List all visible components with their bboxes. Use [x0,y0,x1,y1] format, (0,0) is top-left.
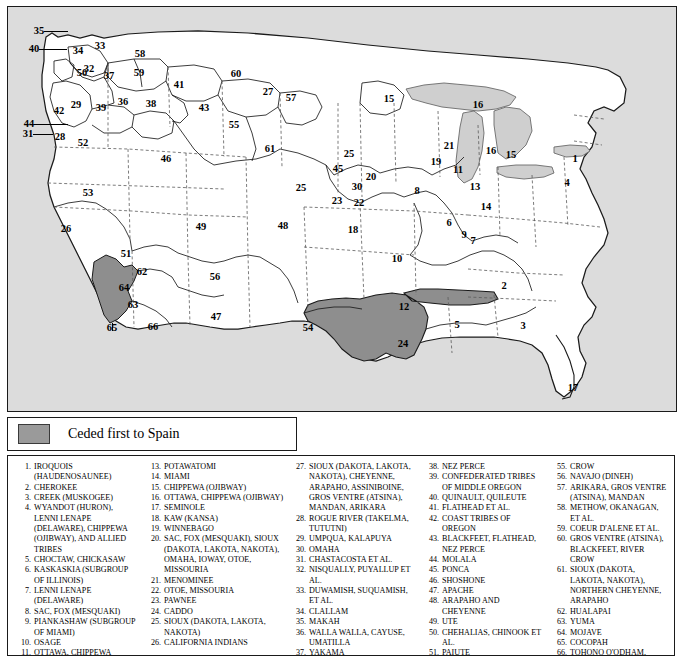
legend-item-label: IROQUOIS (HAUDENOSAUNEE) [34,462,139,483]
legend-item-number: 46. [424,576,442,586]
legend-item-label: OMAHA [309,545,417,555]
region-number-50: 50 [77,68,88,79]
leader-line [39,49,67,50]
legend-item-number: 55. [552,462,570,472]
region-number-12: 12 [399,302,410,313]
legend-item: 6.KASKASKIA (SUBGROUP OF ILLINOIS) [16,565,139,586]
legend-item: 44.MOLALA [424,555,545,565]
legend-item-label: COEUR D'ALENE ET AL. [570,524,667,534]
legend-item-number: 16. [146,493,164,503]
legend-item-label: NEZ PERCE [442,462,545,472]
legend-item-label: SAC, FOX (MESQUAKI), SIOUX (DAKOTA, LAKO… [164,534,284,575]
legend-item-number: 31. [291,555,309,565]
region-number-43: 43 [199,103,210,114]
legend-item-label: OTOE, MISSOURIA [164,586,284,596]
legend-item-label: WYANDOT (HURON), LENNI LENAPE (DELAWARE)… [34,503,139,555]
region-number-1: 1 [572,154,577,165]
legend-item: 36.WALLA WALLA, CAYUSE, UMATILLA [291,628,417,649]
legend-item: 45.PONCA [424,565,545,575]
ceded-spain-swatch [18,424,50,444]
legend-item-number: 42. [424,514,442,535]
legend-item-number: 35. [291,617,309,627]
legend-item-label: PIANKASHAW (SUBGROUP OF MIAMI) [34,617,139,638]
legend-item-number: 45. [424,565,442,575]
legend-item-label: SIOUX (DAKOTA, LAKOTA, NAKOTA), NORTHERN… [570,565,667,606]
legend-item: 61.SIOUX (DAKOTA, LAKOTA, NAKOTA), NORTH… [552,565,667,606]
region-number-6: 6 [446,218,451,229]
legend-item-number: 27. [291,462,309,514]
region-number-35: 35 [34,26,45,37]
region-number-14: 14 [481,202,492,213]
legend-item: 65.COCOPAH [552,638,667,648]
legend-item-label: FLATHEAD ET AL. [442,503,545,513]
legend-item: 49.UTE [424,617,545,627]
region-number-19: 19 [431,157,442,168]
legend-item-label: MOJAVE [570,628,667,638]
region-number-31: 31 [23,129,34,140]
legend-item-number: 33. [291,586,309,607]
region-number-62: 62 [137,267,148,278]
united-states-map [8,7,673,408]
legend-item-number: 65. [552,638,570,648]
region-number-21: 21 [444,141,455,152]
legend-item-label: MIAMI [164,472,284,482]
legend-item: 38.NEZ PERCE [424,462,545,472]
region-number-38: 38 [146,99,157,110]
region-number-66: 66 [148,322,159,333]
region-number-4: 4 [564,178,569,189]
legend-list-box: 1.IROQUOIS (HAUDENOSAUNEE)2.CHEROKEE3.CR… [7,455,675,656]
legend-item-label: CADDO [164,607,284,617]
legend-item-label: YAKAMA [309,648,417,656]
legend-item-number: 5. [16,555,34,565]
legend-item: 62.HUALAPAI [552,607,667,617]
legend-item-label: APACHE [442,586,545,596]
legend-item-number: 20. [146,534,164,575]
legend-item: 35.MAKAH [291,617,417,627]
region-number-2: 2 [501,281,506,292]
legend-item-number: 21. [146,576,164,586]
legend-key-label: Ceded first to Spain [68,426,180,442]
legend-item-number: 58. [552,503,570,524]
region-number-54: 54 [303,323,314,334]
legend-item: 9.PIANKASHAW (SUBGROUP OF MIAMI) [16,617,139,638]
region-number-48: 48 [278,221,289,232]
legend-item-label: WINNEBAGO [164,524,284,534]
legend-item: 14.MIAMI [146,472,284,482]
legend-item: 21.MENOMINEE [146,576,284,586]
legend-item: 50.CHEHALIAS, CHINOOK ET AL. [424,628,545,649]
region-number-22: 22 [354,198,365,209]
legend-item-number: 66. [552,648,570,656]
legend-item-label: CHASTACOSTA ET AL. [309,555,417,565]
legend-item: 3.CREEK (MUSKOGEE) [16,493,139,503]
legend-item: 20.SAC, FOX (MESQUAKI), SIOUX (DAKOTA, L… [146,534,284,575]
region-number-9: 9 [461,230,466,241]
legend-item-label: CHEROKEE [34,483,139,493]
legend-item-number: 26. [146,638,164,648]
legend-item: 25.SIOUX (DAKOTA, LAKOTA, NAKOTA) [146,617,284,638]
region-number-8: 8 [414,186,419,197]
region-number-36: 36 [118,97,129,108]
region-number-5: 5 [454,320,459,331]
legend-item-number: 36. [291,628,309,649]
region-number-7: 7 [470,236,475,247]
legend-item-number: 50. [424,628,442,649]
region-number-59: 59 [134,68,145,79]
legend-item: 32.NISQUALLY, PUYALLUP ET AL. [291,565,417,586]
region-number-55: 55 [229,120,240,131]
region-number-52: 52 [78,138,89,149]
legend-item-label: CHIPPEWA (OJIBWAY) [164,483,284,493]
legend-item: 5.CHOCTAW, CHICKASAW [16,555,139,565]
region-number-63: 63 [128,300,139,311]
region-number-51: 51 [121,249,132,260]
legend-item-label: SIOUX (DAKOTA, LAKOTA, NAKOTA) [164,617,284,638]
legend-item: 42.COAST TRIBES OF OREGON [424,514,545,535]
legend-item-label: HUALAPAI [570,607,667,617]
legend-item: 26.CALIFORNIA INDIANS [146,638,284,648]
legend-item-number: 44. [424,555,442,565]
legend-item-number: 24. [146,607,164,617]
region-number-33: 33 [95,41,106,52]
legend-item: 31.CHASTACOSTA ET AL. [291,555,417,565]
legend-item-number: 18. [146,514,164,524]
legend-item-number: 60. [552,534,570,565]
legend-item: 10.OSAGE [16,638,139,648]
